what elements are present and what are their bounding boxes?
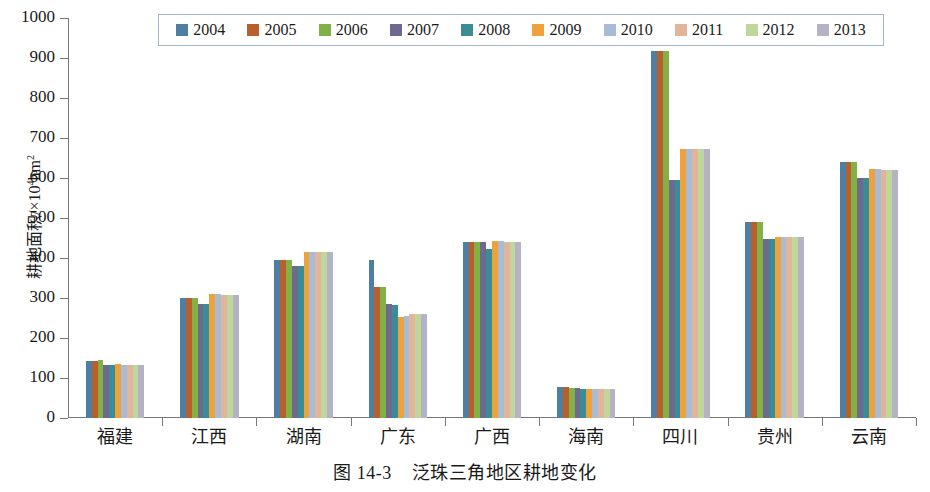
x-axis-label-3: 广东 — [351, 424, 445, 450]
legend-label: 2007 — [407, 21, 439, 39]
bar-group — [745, 18, 803, 418]
legend-item-2011[interactable]: 2011 — [675, 21, 723, 39]
figure-caption: 图 14-3泛珠三角地区耕地变化 — [0, 458, 930, 484]
legend-swatch-icon — [390, 24, 402, 36]
y-tick: 900 — [60, 58, 68, 59]
legend: 2004200520062007200820092010201120122013 — [158, 14, 884, 46]
y-tick: 800 — [60, 98, 68, 99]
bar — [327, 252, 333, 418]
y-tick-label: 800 — [0, 87, 55, 107]
figure-container: 耕地面积/×104hm2 100090080070060050040030020… — [0, 0, 930, 492]
bar — [138, 365, 144, 418]
legend-swatch-icon — [461, 24, 473, 36]
bar — [704, 149, 710, 418]
legend-label: 2012 — [763, 21, 795, 39]
bar — [892, 170, 898, 418]
legend-label: 2011 — [692, 21, 723, 39]
bar — [421, 314, 427, 418]
bar-group — [651, 18, 709, 418]
legend-swatch-icon — [247, 24, 259, 36]
y-tick: 0 — [60, 418, 68, 419]
legend-swatch-icon — [319, 24, 331, 36]
bar-group — [369, 18, 427, 418]
bar-group — [557, 18, 615, 418]
y-tick-label: 300 — [0, 287, 55, 307]
y-tick: 500 — [60, 218, 68, 219]
bar-group — [463, 18, 521, 418]
y-tick-label: 0 — [0, 407, 55, 427]
bar — [233, 295, 239, 418]
caption-number: 图 14-3 — [333, 463, 392, 483]
y-tick-label: 700 — [0, 127, 55, 147]
bar-group — [86, 18, 144, 418]
legend-item-2006[interactable]: 2006 — [319, 21, 368, 39]
y-tick: 1000 — [60, 18, 68, 19]
y-tick-label: 900 — [0, 47, 55, 67]
x-axis-label-1: 江西 — [162, 424, 256, 450]
bar-group — [274, 18, 332, 418]
bar — [515, 242, 521, 418]
x-axis-label-6: 四川 — [633, 424, 727, 450]
y-tick: 300 — [60, 298, 68, 299]
x-axis-label-4: 广西 — [445, 424, 539, 450]
y-tick-label: 600 — [0, 167, 55, 187]
y-tick: 100 — [60, 378, 68, 379]
legend-swatch-icon — [675, 24, 687, 36]
legend-swatch-icon — [532, 24, 544, 36]
legend-swatch-icon — [817, 24, 829, 36]
y-tick: 400 — [60, 258, 68, 259]
x-tick — [916, 418, 917, 426]
y-tick-label: 100 — [0, 367, 55, 387]
y-tick: 200 — [60, 338, 68, 339]
legend-swatch-icon — [176, 24, 188, 36]
legend-swatch-icon — [746, 24, 758, 36]
legend-label: 2005 — [264, 21, 296, 39]
legend-item-2007[interactable]: 2007 — [390, 21, 439, 39]
bar-group — [180, 18, 238, 418]
legend-label: 2006 — [336, 21, 368, 39]
x-axis-label-7: 贵州 — [728, 424, 822, 450]
legend-label: 2008 — [478, 21, 510, 39]
x-axis-label-0: 福建 — [68, 424, 162, 450]
legend-label: 2004 — [193, 21, 225, 39]
legend-label: 2009 — [549, 21, 581, 39]
plot-area: 10009008007006005004003002001000 — [68, 18, 916, 418]
bar — [610, 389, 616, 418]
bars-layer — [68, 18, 916, 418]
caption-text: 泛珠三角地区耕地变化 — [412, 462, 597, 483]
y-tick: 700 — [60, 138, 68, 139]
y-axis-title-unit-exponent: 2 — [25, 155, 36, 160]
y-tick: 600 — [60, 178, 68, 179]
legend-item-2013[interactable]: 2013 — [817, 21, 866, 39]
y-tick-label: 500 — [0, 207, 55, 227]
legend-item-2009[interactable]: 2009 — [532, 21, 581, 39]
legend-item-2010[interactable]: 2010 — [604, 21, 653, 39]
x-axis-labels: 福建江西湖南广东广西海南四川贵州云南 — [68, 424, 916, 454]
y-tick-label: 1000 — [0, 7, 55, 27]
x-axis-label-2: 湖南 — [256, 424, 350, 450]
legend-item-2008[interactable]: 2008 — [461, 21, 510, 39]
legend-swatch-icon — [604, 24, 616, 36]
bar — [798, 237, 804, 418]
legend-item-2005[interactable]: 2005 — [247, 21, 296, 39]
y-tick-label: 200 — [0, 327, 55, 347]
legend-label: 2013 — [834, 21, 866, 39]
x-axis-label-5: 海南 — [539, 424, 633, 450]
legend-item-2012[interactable]: 2012 — [746, 21, 795, 39]
bar-group — [840, 18, 898, 418]
legend-item-2004[interactable]: 2004 — [176, 21, 225, 39]
legend-label: 2010 — [621, 21, 653, 39]
x-axis-label-8: 云南 — [822, 424, 916, 450]
y-tick-label: 400 — [0, 247, 55, 267]
